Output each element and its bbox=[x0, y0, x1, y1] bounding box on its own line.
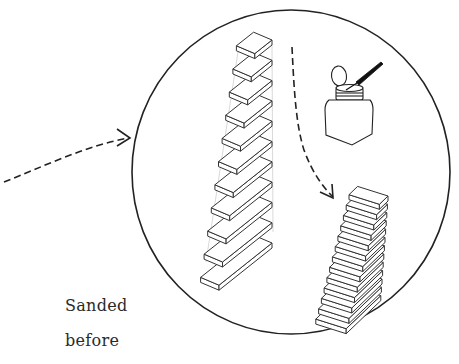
stacked-staircase bbox=[316, 186, 388, 333]
brush-icon bbox=[346, 62, 383, 90]
exploded-block-tower bbox=[201, 32, 273, 290]
incoming-arrow-icon bbox=[4, 129, 130, 182]
magnifier-circle bbox=[132, 10, 450, 334]
caption-line-2: before bbox=[65, 331, 119, 350]
caption-line-1: Sanded bbox=[65, 296, 128, 315]
